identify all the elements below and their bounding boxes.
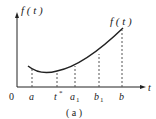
tick-label-a1-sub: 1 bbox=[76, 96, 80, 104]
tick-label-b1-sub: 1 bbox=[100, 96, 104, 104]
y-axis-label: f ( t ) bbox=[21, 4, 43, 17]
curve-label: f ( t ) bbox=[110, 15, 132, 28]
tick-label-b: b bbox=[119, 91, 124, 102]
function-plot: f ( t ) f ( t ) t 0 a t * a 1 b 1 b ( a … bbox=[0, 0, 156, 119]
tick-label-tstar-sup: * bbox=[59, 89, 63, 97]
figure-caption: ( a ) bbox=[66, 107, 82, 119]
origin-label: 0 bbox=[9, 91, 14, 102]
tick-label-b1: b bbox=[94, 91, 99, 102]
y-axis-arrow-icon bbox=[15, 12, 19, 18]
tick-label-a: a bbox=[29, 91, 34, 102]
tick-label-a1: a bbox=[70, 91, 75, 102]
function-curve bbox=[28, 28, 123, 72]
tick-label-tstar: t bbox=[54, 91, 57, 102]
x-axis-label: t bbox=[148, 82, 151, 93]
x-axis-arrow-icon bbox=[140, 85, 146, 89]
